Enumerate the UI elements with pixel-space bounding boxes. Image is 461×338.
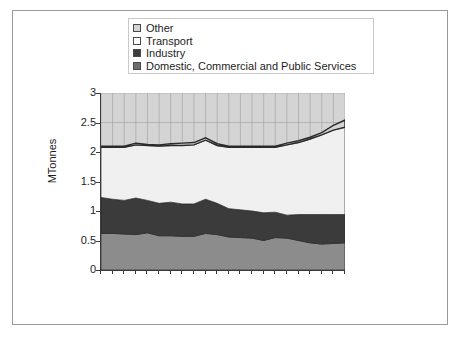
legend-label-domestic: Domestic, Commercial and Public Services — [146, 60, 356, 72]
legend-item-industry: Industry — [133, 47, 369, 60]
chart-figure: Other Transport Industry Domestic, Comme… — [0, 0, 461, 338]
y-tick-label: 2.5 — [54, 116, 96, 128]
y-tick-mark — [96, 93, 100, 94]
legend-swatch-industry — [133, 49, 141, 57]
x-tick-mark — [298, 270, 299, 274]
legend-swatch-other — [133, 24, 141, 32]
y-tick-mark — [96, 270, 100, 271]
y-tick-label: 1 — [54, 204, 96, 216]
x-tick-mark — [263, 270, 264, 274]
legend-swatch-domestic — [133, 62, 141, 70]
y-tick-mark — [96, 152, 100, 153]
legend-swatch-transport — [133, 37, 141, 45]
x-tick-mark — [274, 270, 275, 274]
legend-label-industry: Industry — [146, 47, 185, 59]
stacked-area-plot — [101, 93, 345, 270]
y-tick-label: 0 — [54, 263, 96, 275]
x-tick-mark — [228, 270, 229, 274]
legend-label-other: Other — [146, 22, 174, 34]
legend-item-other: Other — [133, 22, 369, 35]
x-tick-mark — [170, 270, 171, 274]
y-tick-mark — [96, 241, 100, 242]
x-tick-mark — [193, 270, 194, 274]
x-tick-mark — [123, 270, 124, 274]
y-tick-mark — [96, 123, 100, 124]
x-tick-mark — [251, 270, 252, 274]
legend-item-domestic: Domestic, Commercial and Public Services — [133, 60, 369, 73]
x-tick-mark — [286, 270, 287, 274]
x-tick-mark — [100, 270, 101, 274]
x-tick-mark — [309, 270, 310, 274]
y-tick-label: 2 — [54, 145, 96, 157]
x-tick-mark — [158, 270, 159, 274]
y-tick-label: 1.5 — [54, 175, 96, 187]
y-tick-label: 0.5 — [54, 234, 96, 246]
y-axis-ticks: 00.511.522.53 — [52, 93, 96, 270]
legend-label-transport: Transport — [146, 35, 193, 47]
x-tick-mark — [181, 270, 182, 274]
x-tick-mark — [205, 270, 206, 274]
y-tick-label: 3 — [54, 86, 96, 98]
x-tick-mark — [112, 270, 113, 274]
x-tick-mark — [321, 270, 322, 274]
x-tick-mark — [344, 270, 345, 274]
chart-legend: Other Transport Industry Domestic, Comme… — [128, 18, 374, 74]
legend-item-transport: Transport — [133, 35, 369, 48]
x-tick-mark — [146, 270, 147, 274]
x-tick-mark — [332, 270, 333, 274]
x-tick-mark — [216, 270, 217, 274]
x-tick-mark — [135, 270, 136, 274]
plot-area — [100, 93, 345, 271]
x-tick-mark — [239, 270, 240, 274]
y-tick-mark — [96, 182, 100, 183]
y-tick-mark — [96, 211, 100, 212]
